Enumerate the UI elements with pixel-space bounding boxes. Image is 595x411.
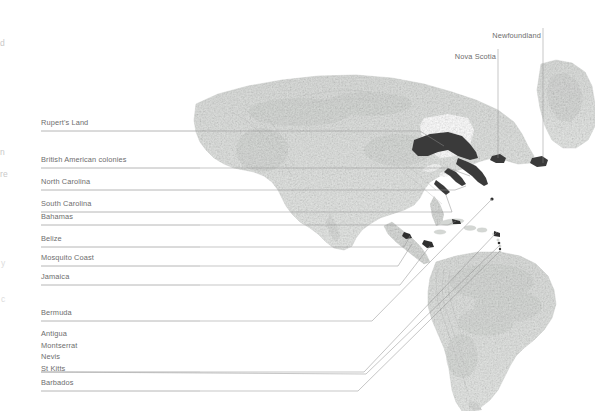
- map-label-st-kitts: St Kitts: [41, 364, 65, 373]
- edge-fragment-0: d: [0, 38, 5, 48]
- map-label-british-colonies: British American colonies: [41, 155, 127, 164]
- landmass-north-america: [194, 75, 534, 264]
- landmass-greenland: [537, 60, 595, 148]
- landmass-south-america: [428, 252, 556, 411]
- map-label-antigua: Antigua: [41, 329, 67, 338]
- map-label-montserrat: Montserrat: [41, 341, 78, 350]
- map-label-south-carolina: South Carolina: [41, 199, 92, 208]
- figure-canvas: d n re y c Rupert's Land British America…: [0, 0, 595, 411]
- map-label-bermuda: Bermuda: [41, 308, 72, 317]
- edge-fragment-3: y: [1, 258, 5, 268]
- map-label-jamaica: Jamaica: [41, 272, 69, 281]
- map-label-belize: Belize: [41, 234, 62, 243]
- map-label-north-carolina: North Carolina: [41, 177, 90, 186]
- map-label-newfoundland: Newfoundland: [441, 31, 541, 40]
- edge-fragment-4: c: [1, 294, 5, 304]
- edge-fragment-2: re: [0, 169, 8, 179]
- map-label-bahamas: Bahamas: [41, 212, 73, 221]
- map-label-ruperts-land: Rupert's Land: [41, 118, 88, 127]
- map-label-nova-scotia: Nova Scotia: [396, 52, 496, 61]
- map-label-mosquito-coast: Mosquito Coast: [41, 253, 94, 262]
- map-label-barbados: Barbados: [41, 378, 74, 387]
- map-label-nevis: Nevis: [41, 352, 60, 361]
- edge-fragment-1: n: [0, 147, 5, 157]
